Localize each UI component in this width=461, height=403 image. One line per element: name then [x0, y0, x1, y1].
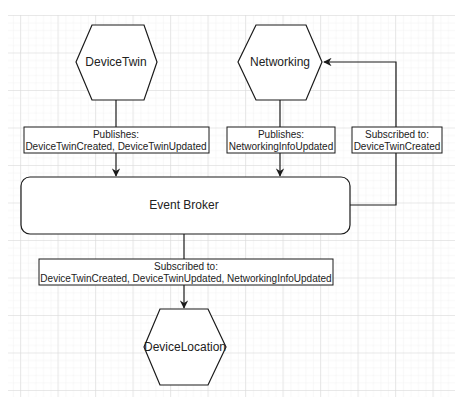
node-networking[interactable]: Networking	[238, 25, 322, 100]
node-networking-label: Networking	[250, 55, 310, 69]
diagram-canvas: DeviceTwin Networking Publishes: DeviceT…	[0, 0, 461, 403]
node-device-location-label: DeviceLocation	[144, 340, 226, 354]
edge-label-line2: DeviceTwinCreated, DeviceTwinUpdated	[25, 141, 206, 152]
edge-label-networking-publish: Publishes: NetworkingInfoUpdated	[227, 127, 335, 153]
edge-label-line1: Subscribed to:	[154, 261, 218, 272]
edge-label-networking-subscribe: Subscribed to: DeviceTwinCreated	[352, 127, 442, 153]
edge-label-device-twin-publish: Publishes: DeviceTwinCreated, DeviceTwin…	[24, 127, 209, 153]
node-event-broker[interactable]: Event Broker	[21, 177, 350, 234]
node-event-broker-label: Event Broker	[149, 198, 218, 212]
edge-label-line2: DeviceTwinCreated	[354, 141, 441, 152]
node-device-twin[interactable]: DeviceTwin	[76, 25, 157, 100]
edge-label-line1: Publishes:	[258, 129, 304, 140]
edge-label-line2: NetworkingInfoUpdated	[229, 141, 334, 152]
edge-label-device-location-subscribe: Subscribed to: DeviceTwinCreated, Device…	[39, 259, 333, 285]
node-device-twin-label: DeviceTwin	[85, 55, 146, 69]
node-device-location[interactable]: DeviceLocation	[144, 309, 226, 385]
edge-label-line1: Publishes:	[93, 129, 139, 140]
edge-label-line2: DeviceTwinCreated, DeviceTwinUpdated, Ne…	[40, 273, 331, 284]
edge-label-line1: Subscribed to:	[365, 129, 429, 140]
